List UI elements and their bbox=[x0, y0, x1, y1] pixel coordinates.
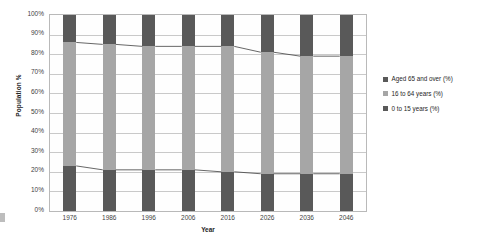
x-tick-label: 2036 bbox=[300, 214, 314, 221]
bar-segment-16-to-64-years[interactable] bbox=[261, 52, 274, 174]
bar-column[interactable] bbox=[142, 15, 155, 211]
legend-swatch-icon bbox=[383, 77, 388, 82]
bar-column[interactable] bbox=[63, 15, 76, 211]
bar-segment-aged-65-and-over[interactable] bbox=[142, 15, 155, 46]
bar-column[interactable] bbox=[261, 15, 274, 211]
bar-column[interactable] bbox=[103, 15, 116, 211]
x-tick-label: 2006 bbox=[181, 214, 195, 221]
x-tick-label: 2046 bbox=[339, 214, 353, 221]
y-tick-label: 80% bbox=[10, 50, 44, 57]
legend-swatch-icon bbox=[383, 91, 388, 96]
bar-segment-16-to-64-years[interactable] bbox=[103, 44, 116, 169]
x-tick-label: 2026 bbox=[260, 214, 274, 221]
bar-segment-16-to-64-years[interactable] bbox=[182, 46, 195, 169]
bar-segment-16-to-64-years[interactable] bbox=[221, 46, 234, 171]
bar-column[interactable] bbox=[340, 15, 353, 211]
bar-segment-16-to-64-years[interactable] bbox=[63, 42, 76, 165]
bar-segment-16-to-64-years[interactable] bbox=[142, 46, 155, 169]
y-tick-label: 90% bbox=[10, 30, 44, 37]
bar-series-group bbox=[50, 15, 366, 211]
y-tick-label: 50% bbox=[10, 109, 44, 116]
legend-swatch-icon bbox=[383, 106, 388, 111]
y-tick-label: 60% bbox=[10, 89, 44, 96]
x-tick-label: 2016 bbox=[221, 214, 235, 221]
y-tick-label: 70% bbox=[10, 69, 44, 76]
y-tick-label: 100% bbox=[10, 11, 44, 18]
y-tick-label: 30% bbox=[10, 148, 44, 155]
bar-segment-aged-65-and-over[interactable] bbox=[221, 15, 234, 46]
x-axis-tick-labels: 19761986199620062016202620362046 bbox=[49, 214, 367, 226]
legend-label: Aged 65 and over (%) bbox=[392, 76, 453, 82]
legend: Aged 65 and over (%)16 to 64 years (%)0 … bbox=[383, 76, 482, 120]
bar-segment-0-to-15-years[interactable] bbox=[340, 174, 353, 211]
bar-segment-0-to-15-years[interactable] bbox=[300, 174, 313, 211]
x-tick-label: 1996 bbox=[142, 214, 156, 221]
bar-segment-aged-65-and-over[interactable] bbox=[182, 15, 195, 46]
bar-segment-aged-65-and-over[interactable] bbox=[103, 15, 116, 44]
bar-segment-aged-65-and-over[interactable] bbox=[63, 15, 76, 42]
bar-segment-0-to-15-years[interactable] bbox=[142, 170, 155, 211]
bar-column[interactable] bbox=[221, 15, 234, 211]
y-tick-label: 40% bbox=[10, 128, 44, 135]
edge-artifact bbox=[0, 213, 5, 222]
bar-segment-0-to-15-years[interactable] bbox=[103, 170, 116, 211]
x-tick-label: 1976 bbox=[63, 214, 77, 221]
x-tick-label: 1986 bbox=[102, 214, 116, 221]
legend-label: 0 to 15 years (%) bbox=[392, 106, 440, 112]
bar-segment-0-to-15-years[interactable] bbox=[63, 166, 76, 211]
plot-area bbox=[49, 14, 367, 212]
bar-segment-0-to-15-years[interactable] bbox=[221, 172, 234, 211]
legend-item[interactable]: Aged 65 and over (%) bbox=[383, 76, 482, 82]
y-axis-tick-labels: 0%10%20%30%40%50%60%70%80%90%100% bbox=[10, 0, 44, 245]
bar-segment-16-to-64-years[interactable] bbox=[300, 56, 313, 174]
y-tick-label: 20% bbox=[10, 167, 44, 174]
bar-column[interactable] bbox=[182, 15, 195, 211]
x-axis-title: Year bbox=[49, 226, 367, 233]
bar-segment-0-to-15-years[interactable] bbox=[261, 174, 274, 211]
bar-segment-aged-65-and-over[interactable] bbox=[261, 15, 274, 52]
y-tick-label: 10% bbox=[10, 187, 44, 194]
legend-item[interactable]: 0 to 15 years (%) bbox=[383, 106, 482, 112]
bar-segment-aged-65-and-over[interactable] bbox=[340, 15, 353, 56]
bar-segment-aged-65-and-over[interactable] bbox=[300, 15, 313, 56]
bar-segment-16-to-64-years[interactable] bbox=[340, 56, 353, 174]
chart-figure: Population % 0%10%20%30%40%50%60%70%80%9… bbox=[0, 0, 482, 245]
legend-item[interactable]: 16 to 64 years (%) bbox=[383, 91, 482, 97]
bar-column[interactable] bbox=[300, 15, 313, 211]
bar-segment-0-to-15-years[interactable] bbox=[182, 170, 195, 211]
y-tick-label: 0% bbox=[10, 207, 44, 214]
legend-label: 16 to 64 years (%) bbox=[392, 91, 443, 97]
